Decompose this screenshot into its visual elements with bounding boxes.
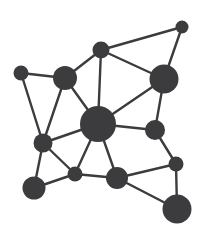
node-layer <box>14 21 192 224</box>
graph-node-right-upper-large[interactable] <box>150 65 179 94</box>
network-graph-figure <box>0 0 206 241</box>
graph-node-bottom-center[interactable] <box>106 167 128 189</box>
graph-node-left-middle[interactable] <box>34 134 53 153</box>
graph-node-left-upper-small[interactable] <box>14 66 29 81</box>
graph-node-bottom-right-large[interactable] <box>163 195 192 224</box>
graph-node-top-center[interactable] <box>93 42 110 59</box>
network-graph-canvas <box>0 0 206 241</box>
graph-node-center-hub[interactable] <box>80 106 116 142</box>
graph-node-bottom-left-medium[interactable] <box>23 177 46 200</box>
graph-node-bottom-center-small[interactable] <box>68 167 83 182</box>
graph-node-right-middle[interactable] <box>145 120 165 140</box>
graph-node-right-lower-small[interactable] <box>169 157 184 172</box>
graph-edge <box>21 73 43 143</box>
graph-node-upper-left-medium[interactable] <box>53 66 77 90</box>
graph-edge <box>101 27 182 50</box>
graph-node-top-right-small[interactable] <box>176 21 189 34</box>
